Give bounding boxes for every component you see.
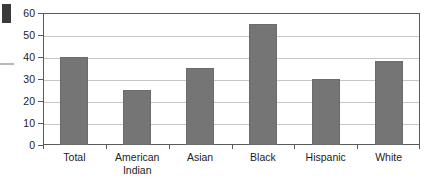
- x-tick-mark: [106, 145, 107, 149]
- bar: [312, 79, 340, 145]
- bar: [375, 61, 403, 145]
- bars-layer: [43, 13, 420, 145]
- x-tick-label: Black: [232, 151, 295, 164]
- x-tick-label: Asian: [169, 151, 232, 164]
- x-tick-label: Total: [43, 151, 106, 164]
- x-tick-mark: [169, 145, 170, 149]
- x-tick-label: Hispanic: [294, 151, 357, 164]
- x-tick-mark: [419, 145, 420, 149]
- x-tick-mark: [43, 145, 44, 149]
- y-tick-label: 30: [11, 74, 35, 85]
- y-tick-label: 20: [11, 96, 35, 107]
- scan-artifact-line: [0, 63, 14, 65]
- bar: [60, 57, 88, 145]
- bar: [186, 68, 214, 145]
- y-tick-label: 60: [11, 8, 35, 19]
- x-tick-label: White: [357, 151, 420, 164]
- bar: [123, 90, 151, 145]
- bar-chart-figure: 0102030405060 TotalAmerican IndianAsianB…: [0, 0, 440, 184]
- bar: [249, 24, 277, 145]
- y-tick-label: 10: [11, 118, 35, 129]
- scan-artifact-block: [2, 4, 11, 23]
- y-tick-label: 0: [11, 140, 35, 151]
- x-tick-label: American Indian: [106, 151, 169, 177]
- x-tick-mark: [232, 145, 233, 149]
- y-tick-label: 50: [11, 30, 35, 41]
- x-tick-mark: [357, 145, 358, 149]
- x-tick-mark: [294, 145, 295, 149]
- y-tick-label: 40: [11, 52, 35, 63]
